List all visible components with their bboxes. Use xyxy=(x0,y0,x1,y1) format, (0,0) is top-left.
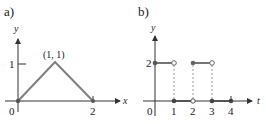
origin-label: 0 xyxy=(147,105,153,117)
open-dot xyxy=(191,99,195,103)
y-tick-label: 2 xyxy=(146,57,152,69)
graph-line xyxy=(18,62,93,101)
t-tick-label-4: 4 xyxy=(228,105,234,117)
y-tick-label: 1 xyxy=(9,58,15,70)
panel-b: b) y t 2 0 1 2 3 4 xyxy=(138,4,260,117)
figure: a) y x 1 (1, 1) 2 0 b) y t 2 xyxy=(0,0,266,124)
t-tick-label-3: 3 xyxy=(209,105,215,117)
t-axis-label: t xyxy=(257,95,260,106)
panel-a-label: a) xyxy=(4,4,14,19)
closed-dot xyxy=(153,61,158,66)
point-2-0 xyxy=(91,99,95,103)
closed-dot xyxy=(210,99,215,104)
y-axis-label: y xyxy=(150,22,156,33)
closed-dot xyxy=(172,99,177,104)
panel-b-label: b) xyxy=(138,4,149,19)
panel-a: a) y x 1 (1, 1) 2 0 xyxy=(4,4,128,117)
closed-dot xyxy=(191,61,196,66)
y-axis-label: y xyxy=(13,23,19,34)
t-tick-label-2: 2 xyxy=(190,105,196,117)
x-axis-label: x xyxy=(122,95,128,106)
origin-point xyxy=(16,99,20,103)
open-dot xyxy=(172,61,177,66)
t-tick-label-1: 1 xyxy=(171,105,177,117)
x-tick-label: 2 xyxy=(90,105,96,117)
open-dot xyxy=(210,61,215,66)
peak-label: (1, 1) xyxy=(43,49,65,61)
origin-label: 0 xyxy=(9,105,15,117)
